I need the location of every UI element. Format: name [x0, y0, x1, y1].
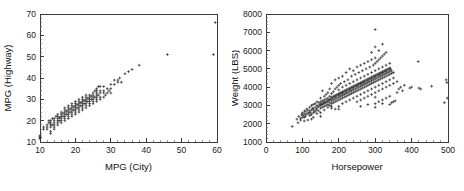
y-tick-label: 5000	[243, 64, 262, 74]
x-tick-label: 400	[405, 145, 419, 155]
y-tick-label: 1000	[243, 137, 262, 147]
y-axis-label: Weight (LBS)	[232, 50, 240, 106]
panel-mpg-city-vs-highway: 10203040506010203040506070MPG (City)MPG …	[0, 0, 232, 191]
x-tick-label: 500	[441, 145, 455, 155]
data-points	[291, 28, 449, 128]
x-tick-label: 300	[368, 145, 382, 155]
x-tick-label: 60	[212, 145, 222, 155]
weight-scatter-svg: 0100200300400500100020003000400050006000…	[232, 0, 464, 191]
x-tick-label: 200	[332, 145, 346, 155]
x-axis-label: Horsepower	[331, 161, 382, 172]
y-tick-label: 50	[27, 52, 37, 62]
y-tick-label: 10	[27, 137, 37, 147]
x-tick-label: 40	[141, 145, 151, 155]
plot-frame	[40, 14, 217, 142]
scatter-plot-figure: 10203040506010203040506070MPG (City)MPG …	[0, 0, 464, 191]
y-tick-label: 40	[27, 73, 37, 83]
y-tick-label: 3000	[243, 100, 262, 110]
y-tick-label: 8000	[243, 9, 262, 19]
x-tick-label: 20	[71, 145, 81, 155]
x-tick-label: 100	[295, 145, 309, 155]
plot-frame	[266, 14, 448, 142]
mpg-scatter-svg: 10203040506010203040506070MPG (City)MPG …	[0, 0, 232, 191]
x-tick-label: 30	[106, 145, 116, 155]
x-tick-label: 50	[177, 145, 187, 155]
data-points	[39, 21, 217, 140]
y-tick-label: 2000	[243, 119, 262, 129]
x-tick-label: 10	[35, 145, 45, 155]
y-tick-label: 60	[27, 30, 37, 40]
y-tick-label: 30	[27, 94, 37, 104]
y-tick-label: 20	[27, 116, 37, 126]
y-tick-label: 70	[27, 9, 37, 19]
y-tick-label: 4000	[243, 82, 262, 92]
y-tick-label: 6000	[243, 46, 262, 56]
x-axis-label: MPG (City)	[105, 161, 152, 172]
panel-horsepower-vs-weight: 0100200300400500100020003000400050006000…	[232, 0, 464, 191]
x-tick-label: 0	[264, 145, 269, 155]
y-tick-label: 7000	[243, 27, 262, 37]
y-axis-label: MPG (Highway)	[2, 44, 13, 111]
